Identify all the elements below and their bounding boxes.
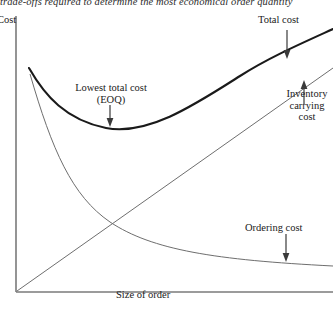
- eoq-figure: trade-offs required to determine the mos…: [0, 0, 333, 310]
- carrying-cost-label-line3: cost: [281, 111, 333, 123]
- ordering-cost-arrow-icon: [283, 234, 290, 262]
- carrying-cost-label-line2: carrying: [281, 100, 333, 112]
- eoq-label: Lowest total cost (EOQ): [63, 82, 159, 105]
- total-cost-label: Total cost: [258, 14, 299, 26]
- eoq-label-line1: Lowest total cost: [63, 82, 159, 94]
- total-cost-arrow-icon: [284, 30, 291, 59]
- eoq-arrow-icon: [107, 105, 114, 127]
- eoq-label-line2: (EOQ): [63, 94, 159, 106]
- carrying-cost-label: Inventory carrying cost: [281, 88, 333, 123]
- y-axis-label: Cost: [0, 14, 16, 26]
- carrying-cost-label-line1: Inventory: [281, 88, 333, 100]
- ordering-cost-label: Ordering cost: [245, 222, 302, 234]
- x-axis-label: Size of order: [116, 289, 170, 301]
- eoq-chart-svg: [0, 0, 333, 310]
